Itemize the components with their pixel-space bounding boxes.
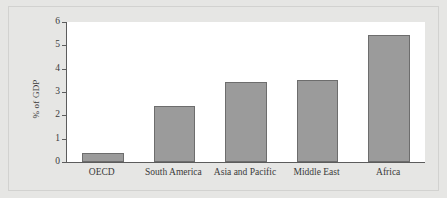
y-tick-label: 1 <box>55 134 60 144</box>
y-tick-label: 5 <box>55 41 60 51</box>
bar-africa <box>368 35 410 162</box>
y-tick-mark <box>62 69 67 70</box>
chart-figure: % of GDP 0123456 OECDSouth AmericaAsia a… <box>0 0 447 198</box>
y-tick-mark <box>62 115 67 116</box>
x-tick-label-africa: Africa <box>376 168 400 178</box>
bar-middle-east <box>297 80 339 162</box>
y-tick-mark <box>62 92 67 93</box>
y-axis-title: % of GDP <box>31 79 41 118</box>
x-tick-label-middle-east: Middle East <box>294 168 340 178</box>
bar-south-america <box>154 106 196 162</box>
y-tick-mark <box>62 45 67 46</box>
y-tick-label: 6 <box>55 17 60 27</box>
y-tick-label: 0 <box>55 157 60 167</box>
y-tick-mark <box>62 162 67 163</box>
y-tick-label: 4 <box>55 64 60 74</box>
x-tick-label-asia-and-pacific: Asia and Pacific <box>214 168 276 178</box>
y-tick-mark <box>62 22 67 23</box>
plot-area: 0123456 <box>66 22 425 163</box>
x-tick-label-south-america: South America <box>145 168 202 178</box>
y-tick-mark <box>62 139 67 140</box>
bar-asia-and-pacific <box>225 82 267 163</box>
bar-oecd <box>82 153 124 162</box>
y-tick-label: 2 <box>55 111 60 121</box>
y-tick-label: 3 <box>55 87 60 97</box>
x-tick-label-oecd: OECD <box>89 168 115 178</box>
